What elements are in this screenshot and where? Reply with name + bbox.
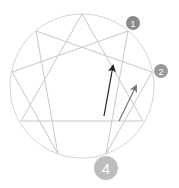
inner-triangle — [21, 14, 143, 121]
enneagram-diagram: 124 — [0, 0, 179, 188]
badge-2: 2 — [154, 64, 168, 78]
badge-label: 4 — [102, 160, 110, 177]
hexad-figure — [12, 31, 152, 154]
enneagram-circle — [10, 14, 154, 158]
dark-arrow-icon — [104, 66, 113, 116]
badge-label: 2 — [158, 67, 163, 77]
badge-1: 1 — [126, 16, 140, 30]
badges-group: 124 — [94, 16, 168, 180]
badge-label: 1 — [130, 19, 135, 29]
badge-4: 4 — [94, 156, 118, 180]
